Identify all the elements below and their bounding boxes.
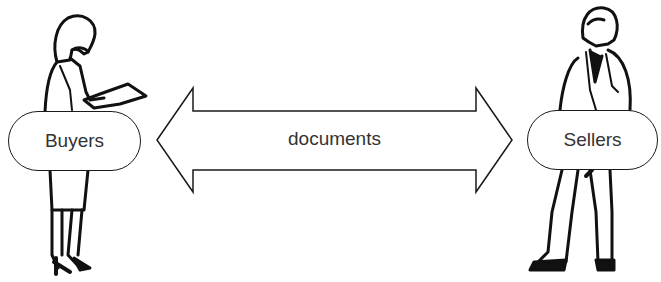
- sellers-node: Sellers: [527, 110, 658, 170]
- documents-label: documents: [193, 128, 476, 150]
- buyers-node: Buyers: [8, 111, 141, 171]
- buyers-label: Buyers: [45, 130, 104, 152]
- sellers-label: Sellers: [563, 129, 621, 151]
